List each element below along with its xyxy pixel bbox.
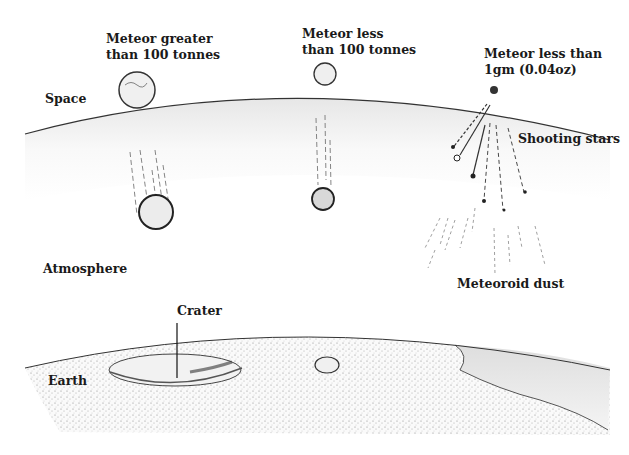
atmosphere-label: Atmosphere: [43, 261, 127, 277]
crater-label: Crater: [177, 303, 222, 319]
medium-meteor-label-line2: than 100 tonnes: [302, 42, 416, 58]
meteoroid-dust-label: Meteoroid dust: [457, 276, 564, 292]
large-meteor-label-line2: than 100 tonnes: [106, 47, 220, 63]
medium-meteor-space: [314, 63, 336, 85]
medium-meteor-label-line1: Meteor less: [302, 26, 384, 42]
small-meteor-label-line2: 1gm (0.04oz): [484, 62, 577, 78]
large-meteor-space: [119, 72, 155, 108]
meteor-diagram: Meteor greater than 100 tonnes Meteor le…: [0, 0, 629, 455]
ground-boulder: [315, 357, 339, 373]
small-meteor-label-line1: Meteor less than: [484, 46, 602, 62]
shooting-stars-label: Shooting stars: [518, 131, 620, 147]
earth-surface: [25, 323, 610, 435]
earth-label: Earth: [48, 373, 87, 389]
meteoroid-dust: [425, 208, 545, 275]
space-label: Space: [45, 91, 86, 107]
large-meteor-label-line1: Meteor greater: [106, 31, 212, 47]
